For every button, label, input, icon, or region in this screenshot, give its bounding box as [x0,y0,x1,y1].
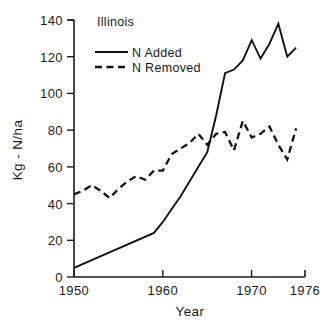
legend-label-n-removed: N Removed [132,61,201,75]
series-line-n-removed [74,121,296,198]
chart-container: 0 20 40 60 80 100 120 140 1950 1960 1970… [0,0,331,326]
y-ticklabel-20: 20 [48,233,63,248]
y-ticklabel-120: 120 [40,50,63,65]
y-axis-tick-labels: 0 20 40 60 80 100 120 140 [40,13,63,285]
y-ticklabel-100: 100 [40,86,63,101]
x-ticklabel-1950: 1950 [59,283,90,298]
x-ticklabel-1960: 1960 [148,283,179,298]
y-ticklabel-140: 140 [40,13,63,28]
y-ticklabel-40: 40 [48,197,63,212]
plot-title: Illinois [97,15,134,29]
line-chart: 0 20 40 60 80 100 120 140 1950 1960 1970… [0,0,331,326]
y-ticklabel-80: 80 [48,123,63,138]
y-ticklabel-60: 60 [48,160,63,175]
y-axis-title: Kg - N/ha [10,120,25,181]
x-axis-tick-labels: 1950 1960 1970 1976 [59,283,321,298]
x-axis-ticks [74,270,252,277]
x-axis-title: Year [176,304,205,319]
chart-legend: N Added N Removed [95,46,201,75]
y-axis-ticks [67,20,74,277]
x-ticklabel-1976: 1976 [290,283,321,298]
x-ticklabel-1970: 1970 [236,283,267,298]
legend-label-n-added: N Added [132,46,182,60]
